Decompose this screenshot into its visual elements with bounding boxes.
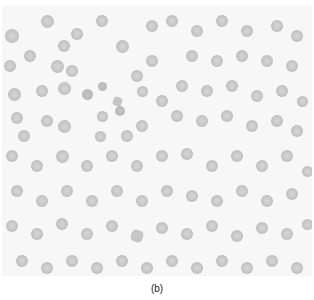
blood-cell <box>156 150 168 162</box>
blood-cell <box>91 262 103 274</box>
blood-cell <box>266 255 278 267</box>
blood-cell <box>286 60 298 72</box>
blood-cell <box>191 262 203 274</box>
blood-cell <box>115 106 125 116</box>
blood-cell <box>11 185 23 197</box>
blood-cell <box>96 15 108 27</box>
blood-cell <box>246 120 258 132</box>
blood-cell <box>291 262 303 274</box>
blood-cell <box>302 166 313 177</box>
blood-cell <box>241 262 253 274</box>
blood-cell <box>31 228 43 240</box>
blood-cell <box>286 188 298 200</box>
blood-cell <box>146 55 158 67</box>
blood-cell <box>97 111 108 122</box>
blood-cell <box>256 222 268 234</box>
blood-cell <box>16 255 28 267</box>
figure-caption: (b) <box>0 283 314 294</box>
blood-cell <box>6 150 18 162</box>
blood-cell <box>302 219 313 230</box>
blood-cell <box>291 125 303 137</box>
blood-cell <box>146 20 158 32</box>
blood-cell <box>271 115 283 127</box>
blood-cell <box>196 115 208 127</box>
blood-cell <box>231 230 243 242</box>
blood-cell <box>191 25 203 37</box>
blood-cell <box>86 195 98 207</box>
blood-cell <box>111 95 123 107</box>
blood-cell <box>95 131 106 142</box>
blood-cell <box>186 50 198 62</box>
blood-cell <box>66 65 78 77</box>
blood-cell <box>106 150 118 162</box>
blood-cell <box>281 228 293 240</box>
blood-cell <box>58 120 71 133</box>
blood-cell <box>166 255 178 267</box>
blood-cell <box>51 60 64 73</box>
blood-cell <box>181 228 193 240</box>
blood-cell <box>6 220 18 232</box>
blood-cell <box>136 195 148 207</box>
blood-cell <box>211 55 223 67</box>
blood-cell <box>31 160 43 172</box>
blood-cell <box>137 86 148 97</box>
blood-cell <box>36 195 48 207</box>
blood-cell <box>206 220 218 232</box>
blood-cell <box>81 160 93 172</box>
blood-cell <box>121 130 133 142</box>
blood-cell <box>61 185 73 197</box>
blood-cell <box>256 160 268 172</box>
blood-cell <box>8 88 21 101</box>
blood-cell <box>41 115 53 127</box>
blood-smear-image <box>2 6 312 276</box>
blood-cell <box>41 15 54 28</box>
blood-cell <box>116 40 129 53</box>
blood-cell <box>98 82 107 91</box>
blood-cell <box>156 95 168 107</box>
blood-cell <box>106 220 118 232</box>
blood-cell <box>226 80 238 92</box>
blood-cell <box>24 50 36 62</box>
blood-cell <box>156 222 168 234</box>
blood-cell <box>66 255 78 267</box>
blood-cell <box>206 160 218 172</box>
blood-cell <box>82 89 93 100</box>
blood-cell <box>231 150 243 162</box>
blood-cell <box>211 195 223 207</box>
blood-cell <box>261 195 273 207</box>
blood-cell <box>81 228 93 240</box>
blood-cell <box>4 60 16 72</box>
blood-cell <box>56 218 68 230</box>
blood-cell <box>11 112 23 124</box>
blood-cell <box>18 130 30 142</box>
blood-cell <box>56 150 69 163</box>
blood-cell <box>186 190 198 202</box>
blood-cell <box>36 85 48 97</box>
blood-cell <box>271 20 283 32</box>
blood-cell <box>181 148 193 160</box>
blood-cell <box>111 185 123 197</box>
blood-cell <box>58 82 71 95</box>
blood-cell <box>261 55 273 67</box>
figure: (b) <box>0 0 314 300</box>
blood-cell <box>201 85 213 97</box>
blood-cell <box>161 185 173 197</box>
blood-cell <box>116 255 128 267</box>
blood-cell <box>176 80 188 92</box>
blood-cell <box>131 70 143 82</box>
blood-cell <box>276 85 288 97</box>
blood-cell <box>216 255 228 267</box>
blood-cell <box>131 160 143 172</box>
blood-cell <box>221 110 233 122</box>
blood-cell <box>236 50 248 62</box>
blood-cell <box>171 110 183 122</box>
blood-cell <box>251 90 263 102</box>
blood-cell <box>236 185 248 197</box>
blood-cell <box>71 28 83 40</box>
blood-cell <box>297 96 308 107</box>
blood-cell <box>241 25 253 37</box>
blood-cell <box>41 262 53 274</box>
blood-cell <box>166 15 178 27</box>
blood-cell <box>5 29 19 43</box>
blood-cell <box>281 150 293 162</box>
